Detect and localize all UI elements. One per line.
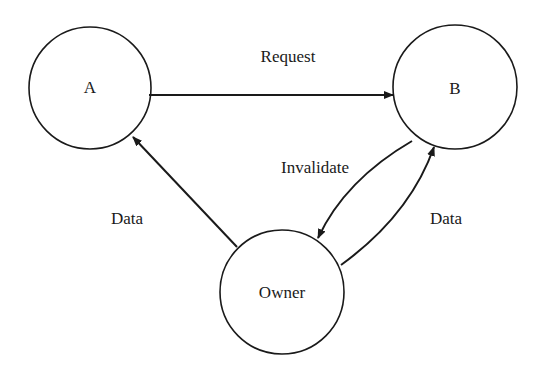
edge-data-owner-to-b: Data [341, 147, 462, 265]
node-a-label: A [84, 78, 97, 97]
node-b: B [393, 25, 517, 149]
edge-data-left-label: Data [111, 209, 144, 228]
edge-invalidate: Invalidate [281, 141, 412, 238]
data-left-arrow [133, 137, 237, 247]
data-right-arrow [341, 147, 434, 265]
node-owner: Owner [220, 230, 344, 354]
edge-request-label: Request [261, 47, 316, 66]
edge-data-owner-to-a: Data [111, 137, 237, 247]
invalidate-arrow [318, 141, 412, 238]
node-owner-label: Owner [259, 283, 306, 302]
node-b-label: B [449, 79, 460, 98]
cache-coherence-diagram: A B Owner Request Data Invalidate Data [0, 0, 538, 366]
edge-request: Request [149, 47, 393, 95]
edge-invalidate-label: Invalidate [281, 158, 349, 177]
node-a: A [29, 27, 151, 149]
edge-data-right-label: Data [430, 209, 463, 228]
